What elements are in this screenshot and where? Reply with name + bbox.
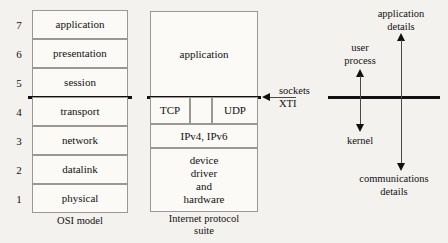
osi-layer-number-7: 7	[12, 19, 26, 31]
kernel-arrowhead-icon	[356, 124, 364, 132]
ips-link-line-1: device	[190, 154, 219, 167]
osi-layer-number-6: 6	[12, 48, 26, 60]
osi-layer-presentation: presentation	[32, 39, 128, 68]
communications-details-line-1: communications	[341, 173, 447, 186]
osi-layer-number-2: 2	[12, 164, 26, 176]
ips-application-box: application	[150, 11, 258, 97]
ips-network-ip: IPv4, IPv6	[150, 124, 258, 148]
sockets-xti-label: sockets XTI	[279, 85, 310, 110]
osi-model-caption: OSI model	[32, 215, 128, 227]
user-process-label: user process	[330, 42, 390, 67]
osi-layer-number-4: 4	[12, 106, 26, 118]
internet-protocol-suite-caption: Internet protocol suite	[144, 213, 264, 238]
ips-caption-line-2: suite	[144, 225, 264, 237]
ips-transport-udp: UDP	[212, 97, 258, 124]
ips-link-line-2: driver	[191, 167, 217, 180]
osi-layer-physical: physical	[32, 184, 128, 213]
user-process-kernel-shaft	[360, 76, 361, 130]
osi-layer-datalink: datalink	[32, 155, 128, 184]
osi-layer-application: application	[32, 10, 128, 39]
ips-caption-line-1: Internet protocol	[144, 213, 264, 225]
ips-link-line-4: hardware	[184, 193, 225, 206]
osi-layer-number-3: 3	[12, 135, 26, 147]
communications-details-arrowhead-icon	[397, 163, 405, 171]
communications-details-label: communications details	[341, 173, 447, 198]
kernel-label: kernel	[330, 135, 390, 148]
osi-layer-network: network	[32, 126, 128, 155]
sockets-xti-line-1: sockets	[279, 85, 310, 98]
ips-link-device-driver-hardware: device driver and hardware	[150, 148, 258, 212]
kernel-boundary-line	[328, 96, 440, 99]
application-details-line-2: details	[355, 21, 447, 34]
user-process-line-2: process	[330, 55, 390, 68]
ips-transport-tcp: TCP	[150, 97, 190, 124]
user-process-line-1: user	[330, 42, 390, 55]
sockets-xti-arrowhead-icon	[262, 93, 270, 101]
details-scope-shaft	[401, 40, 402, 169]
osi-layer-transport: transport	[32, 97, 128, 126]
ips-transport-gap	[190, 97, 212, 124]
application-details-line-1: application	[355, 8, 447, 21]
ips-link-line-3: and	[196, 180, 212, 193]
protocol-stack-diagram: 7 application 6 presentation 5 session 4…	[0, 0, 448, 243]
application-details-label: application details	[355, 8, 447, 33]
communications-details-line-2: details	[341, 186, 447, 199]
osi-layer-number-5: 5	[12, 77, 26, 89]
sockets-xti-line-2: XTI	[279, 98, 310, 111]
osi-layer-number-1: 1	[12, 193, 26, 205]
osi-layer-session: session	[32, 68, 128, 97]
